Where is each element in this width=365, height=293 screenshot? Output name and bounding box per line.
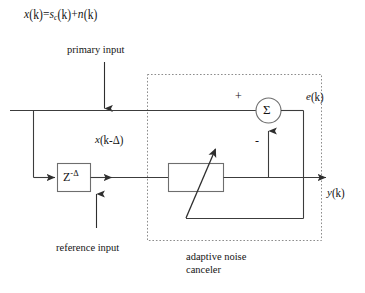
canceler-caption-line-1: adaptive noise bbox=[186, 250, 246, 263]
output-signal-arg: (k) bbox=[332, 185, 345, 200]
delay-exponent-label: -Δ bbox=[70, 168, 78, 178]
adaptive-filter-box bbox=[169, 164, 224, 192]
delayed-signal-arg: (k-Δ) bbox=[100, 132, 124, 147]
equation-plus: + bbox=[71, 8, 78, 20]
error-signal-arg: (k) bbox=[311, 89, 324, 104]
primary-input-label: primary input bbox=[67, 44, 124, 56]
block-diagram-graphics bbox=[0, 0, 365, 293]
output-signal-label: y(k) bbox=[327, 186, 345, 199]
canceler-caption-line-2: canceler bbox=[186, 263, 246, 276]
error-signal-label: e(k) bbox=[306, 90, 324, 103]
equation-equals: = bbox=[43, 8, 50, 20]
equation-term1-arg: (k) bbox=[58, 7, 72, 23]
input-equation: x(k)=sc(k)+n(k) bbox=[24, 8, 97, 23]
reference-input-label: reference input bbox=[56, 242, 119, 254]
equation-lhs-arg: (k) bbox=[29, 7, 43, 23]
minus-sign-label: - bbox=[255, 135, 259, 149]
canceler-caption: adaptive noise canceler bbox=[186, 250, 246, 277]
delay-block-label: Z-Δ bbox=[63, 169, 79, 184]
summation-symbol-label: Σ bbox=[263, 103, 271, 118]
plus-sign-label: + bbox=[235, 90, 242, 104]
diagram-canvas: x(k)=sc(k)+n(k) primary input x(k-Δ) Z-Δ… bbox=[0, 0, 365, 293]
equation-term2-arg: (k) bbox=[84, 7, 98, 23]
delayed-signal-label: x(k-Δ) bbox=[95, 133, 123, 146]
